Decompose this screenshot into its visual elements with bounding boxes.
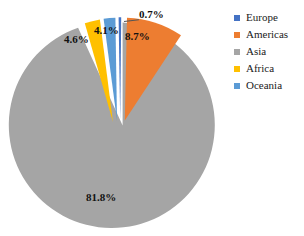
slice-label-asia: 81.8% bbox=[86, 191, 116, 203]
legend-label-americas: Americas bbox=[246, 29, 288, 40]
legend-item-europe[interactable]: Europe bbox=[234, 9, 302, 26]
legend-swatch-europe bbox=[234, 15, 240, 21]
legend-label-europe: Europe bbox=[246, 12, 278, 23]
legend-item-oceania[interactable]: Oceania bbox=[234, 77, 302, 94]
pie-chart-figure: 0.7% 8.7% 4.1% 4.6% 81.8% Europe America… bbox=[0, 0, 304, 236]
legend-swatch-oceania bbox=[234, 83, 240, 89]
slice-label-europe: 0.7% bbox=[139, 8, 164, 20]
legend-item-africa[interactable]: Africa bbox=[234, 60, 302, 77]
chart-legend: Europe Americas Asia Africa Oceania bbox=[234, 9, 302, 94]
legend-swatch-americas bbox=[234, 32, 240, 38]
legend-swatch-africa bbox=[234, 66, 240, 72]
pie-slice-europe[interactable] bbox=[119, 17, 122, 120]
legend-swatch-asia bbox=[234, 49, 240, 55]
legend-item-americas[interactable]: Americas bbox=[234, 26, 302, 43]
slice-label-americas: 8.7% bbox=[125, 30, 150, 42]
legend-label-africa: Africa bbox=[246, 63, 274, 74]
slice-label-oceania: 4.1% bbox=[94, 24, 119, 36]
legend-label-oceania: Oceania bbox=[246, 80, 282, 91]
legend-item-asia[interactable]: Asia bbox=[234, 43, 302, 60]
slice-label-africa: 4.6% bbox=[64, 33, 89, 45]
pie-chart-plot-area: 0.7% 8.7% 4.1% 4.6% 81.8% bbox=[0, 0, 224, 236]
legend-label-asia: Asia bbox=[246, 46, 266, 57]
